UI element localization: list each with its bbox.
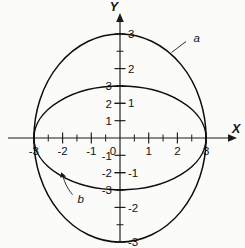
y-outer-tick-label-neg1: -1	[128, 167, 138, 179]
x-tick-label-neg2: -2	[57, 145, 67, 157]
leader-line-a	[172, 42, 187, 53]
y-axis-label: Y	[110, 0, 120, 14]
leader-arrowhead-b	[60, 172, 66, 177]
curve-label-b: b	[78, 193, 85, 205]
y-inner-tick-label-2: 2	[106, 98, 112, 110]
annotation-a: a	[172, 32, 201, 53]
annotation-b: b	[60, 172, 85, 205]
figure-container: Y X -3 -2 -1 0 1 2 3	[0, 0, 245, 248]
x-axis-label: X	[231, 122, 241, 136]
graph-canvas: Y X -3 -2 -1 0 1 2 3	[0, 0, 245, 248]
x-tick-label-1: 1	[145, 145, 151, 157]
y-axis-arrowhead	[116, 13, 124, 22]
y-inner-tick-label-neg1: -1	[102, 150, 112, 162]
y-outer-tick-label-1: 1	[128, 97, 134, 109]
y-inner-tick-label-1: 1	[106, 115, 112, 127]
curve-label-a: a	[194, 32, 200, 44]
y-outer-tick-label-neg2: -2	[128, 202, 138, 214]
y-outer-tick-label-2: 2	[128, 63, 134, 75]
y-inner-tick-label-neg2: -2	[102, 167, 112, 179]
x-tick-label-neg1: -1	[86, 145, 96, 157]
x-tick-label-2: 2	[174, 145, 180, 157]
